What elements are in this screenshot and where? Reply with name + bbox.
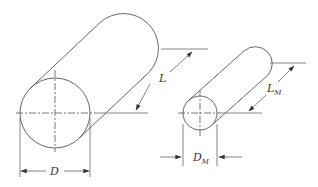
model-length-arrow-lower	[249, 95, 266, 111]
prototype-length-label: L	[158, 72, 166, 85]
model-length-label: LM	[266, 82, 282, 97]
model-diameter-label: DM	[192, 151, 210, 166]
prototype-length-arrow-lower	[136, 84, 150, 110]
prototype-cylinder: L D	[16, 14, 208, 178]
prototype-length-arrow-upper	[170, 52, 192, 72]
prototype-diameter-label: D	[49, 165, 59, 178]
cylinder-scale-diagram: L D LM DM	[0, 0, 318, 187]
model-cylinder: LM DM	[160, 47, 306, 166]
model-length-arrow-upper	[278, 66, 294, 82]
prototype-body-outline	[30, 14, 158, 138]
